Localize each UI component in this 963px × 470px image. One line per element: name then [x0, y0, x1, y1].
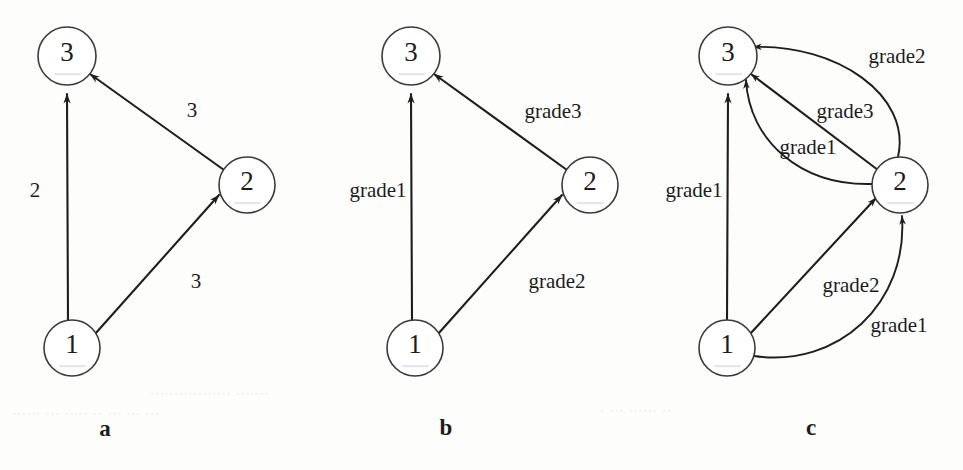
figure-container: ................. ....... ...... ... ...…	[0, 0, 963, 470]
edge-label-1-3: grade1	[665, 178, 722, 202]
node-1[interactable]: 1	[44, 320, 100, 376]
node-1-label: 1	[720, 329, 734, 359]
panel-c: 3 2 1 grade1 grade2 grade3 grade1 gr	[665, 27, 928, 440]
panel-b-nodes: 3 2 1	[382, 27, 618, 376]
node-3-label: 3	[721, 37, 735, 67]
node-3[interactable]: 3	[38, 27, 96, 85]
node-2[interactable]: 2	[219, 157, 275, 213]
node-1-label: 1	[408, 329, 422, 359]
edge-label-1-2: grade2	[528, 269, 585, 293]
node-1[interactable]: 1	[699, 320, 755, 376]
panel-a: 3 2 1 2 3 3 a	[30, 27, 275, 441]
node-1-label: 1	[65, 329, 79, 359]
panel-caption-a: a	[99, 416, 111, 441]
panel-caption-c: c	[806, 415, 816, 440]
edge-label-1-2: 3	[191, 269, 202, 293]
panel-a-nodes: 3 2 1	[38, 27, 275, 376]
panel-c-edges	[727, 47, 902, 358]
edge-1-to-3	[411, 94, 412, 320]
edge-label-2-3-straight: grade3	[816, 99, 873, 123]
edge-label-1-2-straight: grade2	[822, 273, 879, 297]
graph-svg: 3 2 1 2 3 3 a	[0, 0, 963, 470]
edge-label-1-3: grade1	[349, 178, 406, 202]
node-3-label: 3	[60, 37, 74, 67]
panel-b: 3 2 1 grade1 grade3 grade2 b	[349, 27, 618, 440]
panel-a-edge-labels: 2 3 3	[30, 98, 202, 293]
panel-b-edge-labels: grade1 grade3 grade2	[349, 99, 585, 293]
edge-1-to-2	[95, 195, 219, 334]
node-3-label: 3	[404, 37, 418, 67]
edge-1-to-3	[727, 94, 728, 320]
node-3[interactable]: 3	[382, 27, 440, 85]
node-1[interactable]: 1	[387, 320, 443, 376]
edge-label-2-3: grade3	[524, 99, 581, 123]
edge-1-to-2	[438, 195, 562, 334]
node-2-label: 2	[240, 166, 254, 196]
node-2-label: 2	[583, 166, 597, 196]
node-2[interactable]: 2	[872, 157, 928, 213]
node-3[interactable]: 3	[699, 27, 757, 85]
node-2[interactable]: 2	[562, 157, 618, 213]
node-2-label: 2	[893, 166, 907, 196]
edge-2-to-3-inner-curve	[746, 80, 872, 184]
panel-caption-b: b	[440, 415, 453, 440]
panel-a-edges	[67, 74, 224, 334]
edge-label-1-3: 2	[30, 178, 41, 202]
edge-label-2-3-outer: grade2	[868, 44, 925, 68]
edge-1-to-2-straight	[750, 198, 876, 334]
edge-label-1-2-curve: grade1	[870, 313, 927, 337]
edge-label-2-3: 3	[187, 98, 198, 122]
edge-label-2-3-inner: grade1	[779, 135, 836, 159]
edge-2-to-3	[90, 74, 224, 170]
edge-1-to-3	[67, 94, 68, 320]
